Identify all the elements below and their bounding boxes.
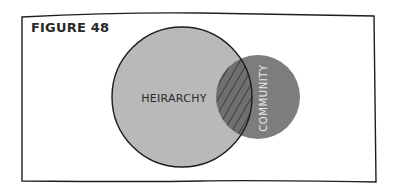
figure-title: FIGURE 48 (31, 20, 109, 35)
community-label: COMMUNITY (258, 64, 269, 132)
hierarchy-label: HEIRARCHY (141, 92, 207, 105)
